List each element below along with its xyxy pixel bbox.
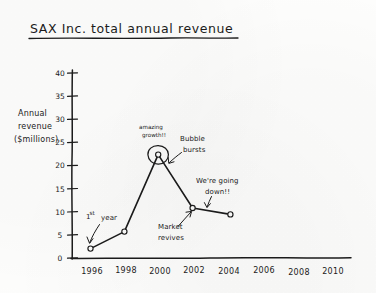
paper-sheet: SAX Inc. total annual revenue Annual rev…: [0, 0, 376, 293]
hand-drawn-line-chart: SAX Inc. total annual revenue Annual rev…: [0, 0, 376, 293]
x-tick-label-2006: 2006: [253, 266, 275, 275]
x-tick-label-2000: 2000: [149, 267, 171, 276]
annotation-were-going-down: We're going down!!: [196, 177, 239, 208]
x-axis-tick-labels: 1996 1998 2000 2002 2004 2006 2008 2010: [81, 266, 344, 277]
y-tick-label-10: 10: [55, 208, 65, 217]
x-tick-label-2002: 2002: [183, 266, 205, 275]
annotation-market-revives-arrow-shaft: [178, 212, 191, 226]
annotation-amazing-growth: amazing growth!!: [139, 124, 166, 139]
annotation-were-going-down-line-1: We're going: [196, 177, 239, 185]
y-axis-line: [72, 70, 73, 259]
chart-title: SAX Inc. total annual revenue: [30, 21, 233, 36]
data-point-2002: [190, 205, 195, 210]
annotation-first-year-word: year: [101, 214, 117, 222]
title-underline: [29, 38, 238, 39]
annotation-bubble-bursts-arrow-shaft: [169, 153, 181, 163]
annotation-amazing-growth-line-1: amazing: [139, 124, 163, 131]
data-point-2004: [228, 212, 233, 217]
y-tick-label-0: 0: [58, 254, 63, 263]
x-tick-label-1998: 1998: [115, 266, 137, 275]
y-tick-label-40: 40: [55, 69, 65, 78]
y-tick-label-25: 25: [55, 138, 65, 147]
annotation-market-revives-line-2: revives: [158, 234, 184, 242]
y-tick-label-15: 15: [55, 185, 65, 194]
y-tick-label-35: 35: [55, 92, 65, 101]
data-segment-1998-2000: [124, 155, 158, 232]
annotation-were-going-down-line-2: down!!: [205, 188, 230, 196]
x-axis-line: [71, 258, 351, 259]
data-point-1998: [122, 229, 127, 234]
y-tick-label-20: 20: [55, 161, 65, 170]
x-tick-label-2004: 2004: [218, 267, 240, 276]
y-axis-tick-labels: 0 5 10 15 20 25 30 35 40: [55, 69, 65, 263]
y-axis-label-line-1: Annual: [18, 109, 47, 118]
x-tick-label-2010: 2010: [322, 267, 344, 276]
y-axis-label-line-2: revenue: [18, 122, 52, 131]
annotation-first-year-suffix: st: [90, 210, 96, 216]
data-segment-2002-2004: [193, 208, 231, 214]
annotation-first-year-arrow-shaft: [90, 225, 100, 243]
y-tick-label-30: 30: [55, 115, 65, 124]
y-tick-label-5: 5: [58, 231, 63, 240]
annotation-amazing-growth-line-2: growth!!: [142, 132, 166, 139]
data-point-1996: [88, 246, 93, 251]
data-point-2000: [156, 152, 161, 157]
annotation-bubble-bursts-line-2: bursts: [183, 146, 206, 154]
x-tick-label-1996: 1996: [81, 267, 103, 276]
annotation-bubble-bursts: Bubble bursts: [168, 135, 205, 163]
x-tick-label-2008: 2008: [288, 268, 310, 277]
y-axis-label-line-3: ($millions): [14, 135, 58, 144]
data-segment-1996-1998: [91, 232, 125, 249]
annotation-bubble-bursts-line-1: Bubble: [180, 135, 205, 143]
annotation-market-revives-line-1: Market: [158, 223, 183, 231]
annotation-market-revives: Market revives: [158, 211, 192, 242]
